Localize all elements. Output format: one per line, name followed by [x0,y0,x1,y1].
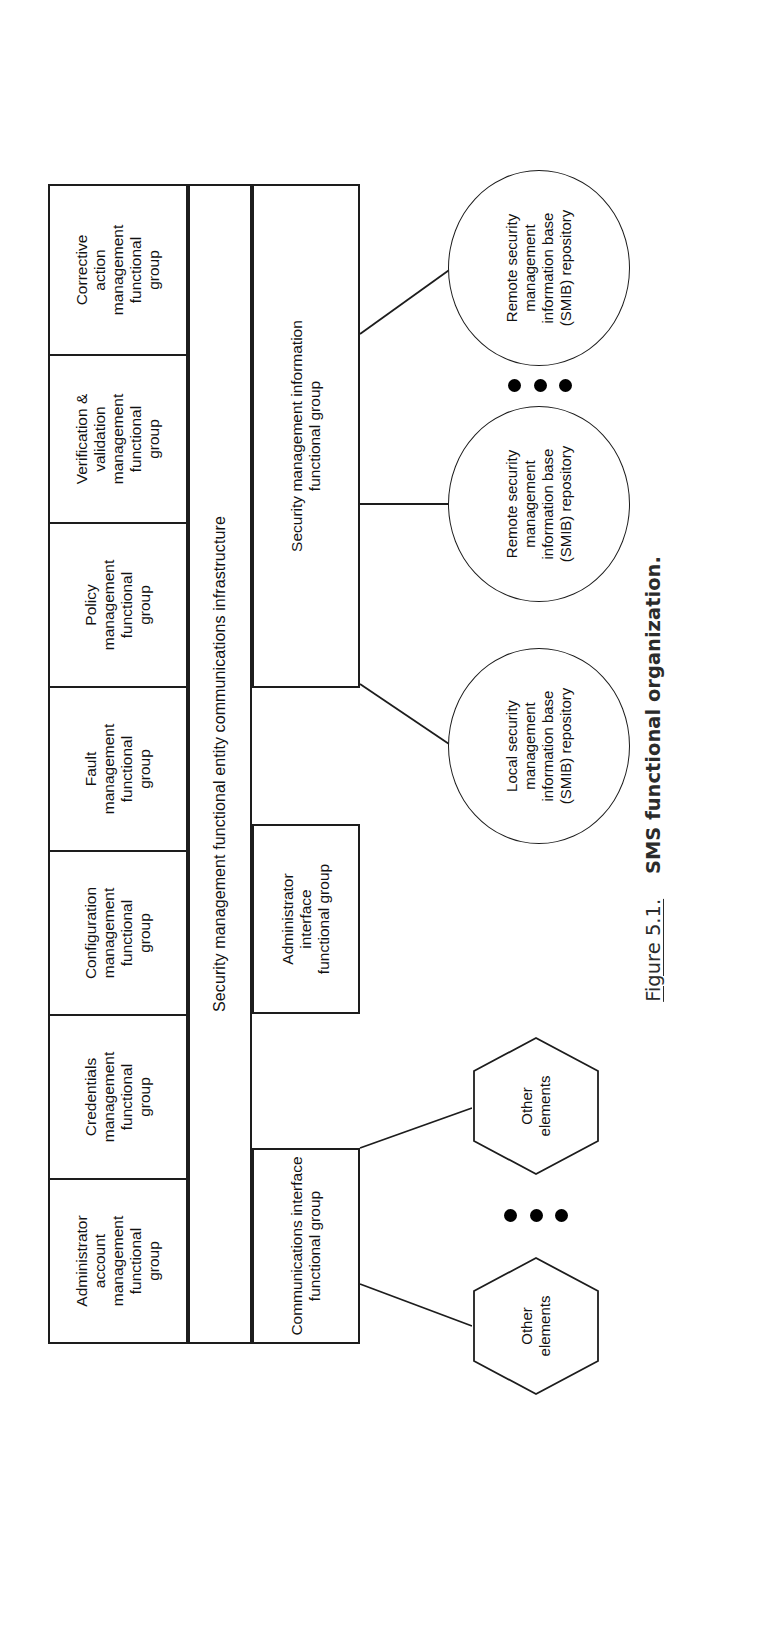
figure-title: SMS functional organization. [642,556,665,874]
box-administrator-account-management: Administrator account management functio… [48,1178,188,1344]
box-security-management-information: Security management information function… [252,184,360,688]
box-policy-management: Policy management functional group [48,522,188,688]
dot [504,1210,517,1223]
box-administrator-interface: Administrator interface functional group [252,824,360,1014]
hexagon-other-elements-2: Other elements [472,1036,600,1176]
dot [555,1210,568,1223]
box-label: Policy management functional group [82,560,154,650]
box-label: Security management information function… [288,320,324,552]
box-label: Configuration management functional grou… [82,887,154,979]
hexagon-label: Other elements [518,1076,554,1137]
ellipse-label: Remote security management information b… [503,446,575,563]
box-credentials-management: Credentials management functional group [48,1014,188,1180]
hexagon-label: Other elements [518,1296,554,1357]
box-configuration-management: Configuration management functional grou… [48,850,188,1016]
ellipse-local-smib-repository: Local security management information ba… [448,648,630,844]
box-label: Corrective action management functional … [73,225,163,315]
box-label: Credentials management functional group [82,1052,154,1142]
figure-caption: Figure 5.1. SMS functional organization. [642,214,665,1344]
box-corrective-action-management: Corrective action management functional … [48,184,188,356]
ellipse-label: Local security management information ba… [503,688,575,805]
figure-stage: Administrator account management functio… [42,212,732,1422]
box-label: Verification & validation management fun… [73,394,163,484]
figure-number: Figure 5.1. [642,899,665,1002]
ellipse-label: Remote security management information b… [503,210,575,327]
dot [508,380,521,393]
ellipsis-dots-repositories [508,379,572,393]
box-label: Communications interface functional grou… [288,1156,324,1335]
hexagon-other-elements-1: Other elements [472,1256,600,1396]
ellipse-remote-smib-repository-1: Remote security management information b… [448,406,630,602]
communications-infrastructure-bar: Security management functional entity co… [188,184,252,1344]
box-fault-management: Fault management functional group [48,686,188,852]
dot [534,380,547,393]
box-communications-interface: Communications interface functional grou… [252,1148,360,1344]
ellipse-remote-smib-repository-2: Remote security management information b… [448,170,630,366]
ellipsis-dots-elements [504,1209,568,1223]
box-label: Fault management functional group [82,724,154,814]
dot [530,1210,543,1223]
box-verification-validation-management: Verification & validation management fun… [48,354,188,524]
box-label: Administrator interface functional group [279,864,333,974]
communications-infrastructure-label: Security management functional entity co… [211,516,229,1012]
sms-functional-organization-diagram: Administrator account management functio… [42,214,732,1344]
dot [559,380,572,393]
box-label: Administrator account management functio… [73,1215,163,1306]
